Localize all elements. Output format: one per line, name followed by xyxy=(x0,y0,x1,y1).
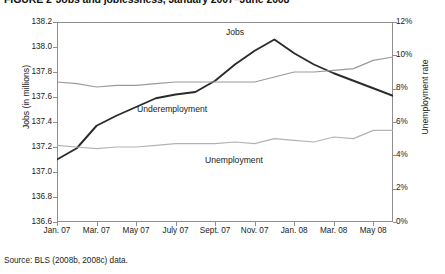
y-axis-label-right: Unemployment rate xyxy=(420,27,430,167)
y-tick-right-8%: 8% xyxy=(396,83,426,92)
x-tick-mar--08: Mar. 08 xyxy=(320,226,347,235)
y-tick-left-136.6: 136.6 xyxy=(6,217,52,226)
y-tick-right-4%: 4% xyxy=(396,150,426,159)
y-tick-left-137.4: 137.4 xyxy=(6,117,52,126)
y-tick-right-2%: 2% xyxy=(396,183,426,192)
series-label-unemployment: Unemployment xyxy=(205,155,263,165)
y-tickmark-right xyxy=(393,122,397,123)
x-tickmark xyxy=(255,222,256,226)
y-tickmark-left xyxy=(53,47,57,48)
x-tick-sept--07: Sept. 07 xyxy=(200,226,231,235)
x-tick-nov--07: Nov. 07 xyxy=(241,226,269,235)
x-tick-may-08: May 08 xyxy=(360,226,387,235)
x-tick-jan--07: Jan. 07 xyxy=(44,226,71,235)
y-tick-right-10%: 10% xyxy=(396,50,426,59)
y-tickmark-right xyxy=(393,55,397,56)
x-tickmark xyxy=(215,222,216,226)
y-tick-left-137.0: 137.0 xyxy=(6,167,52,176)
y-tick-right-12%: 12% xyxy=(396,17,426,26)
series-label-underemployment: Underemployment xyxy=(137,104,207,114)
x-tick-jan--08: Jan. 08 xyxy=(281,226,308,235)
y-tickmark-right xyxy=(393,22,397,23)
y-tickmark-right xyxy=(393,89,397,90)
x-tickmark xyxy=(373,222,374,226)
x-tickmark xyxy=(57,222,58,226)
y-tickmark-left xyxy=(53,122,57,123)
y-tick-left-137.8: 137.8 xyxy=(6,67,52,76)
y-tick-left-137.6: 137.6 xyxy=(6,92,52,101)
y-tick-right-0%: 0% xyxy=(396,217,426,226)
x-tick-may-07: May 07 xyxy=(123,226,150,235)
x-tickmark xyxy=(334,222,335,226)
y-tickmark-right xyxy=(393,155,397,156)
y-tickmark-left xyxy=(53,97,57,98)
y-tick-left-138.2: 138.2 xyxy=(6,17,52,26)
x-tick-july-07: July 07 xyxy=(163,226,189,235)
y-tick-left-138.0: 138.0 xyxy=(6,42,52,51)
y-tickmark-right xyxy=(393,189,397,190)
series-line-jobs xyxy=(57,40,393,160)
y-tickmark-left xyxy=(53,72,57,73)
y-tickmark-left xyxy=(53,22,57,23)
x-tick-mar--07: Mar. 07 xyxy=(83,226,110,235)
y-tickmark-left xyxy=(53,147,57,148)
x-tickmark xyxy=(294,222,295,226)
y-tickmark-left xyxy=(53,172,57,173)
chart: Jobs (in millions) Unemployment rate Job… xyxy=(0,0,445,250)
series-label-jobs: Jobs xyxy=(226,27,244,37)
y-tick-left-137.2: 137.2 xyxy=(6,142,52,151)
y-tickmark-left xyxy=(53,197,57,198)
y-tick-left-136.8: 136.8 xyxy=(6,192,52,201)
x-tickmark xyxy=(176,222,177,226)
source-note: Source: BLS (2008b, 2008c) data. xyxy=(4,256,128,265)
plot-lines xyxy=(57,22,393,222)
series-line-unemployment xyxy=(57,130,393,148)
x-tickmark xyxy=(97,222,98,226)
y-tick-right-6%: 6% xyxy=(396,117,426,126)
y-tickmark-right xyxy=(393,222,397,223)
x-tickmark xyxy=(136,222,137,226)
